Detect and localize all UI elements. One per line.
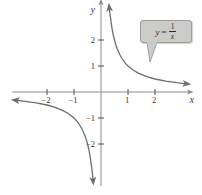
x-tick-label: 2 [152, 95, 156, 105]
x-axis-label: x [189, 95, 195, 105]
equation-fraction: 1x [169, 23, 177, 40]
x-tick-label: 1 [125, 95, 129, 105]
y-tick-label: 1 [91, 61, 95, 71]
x-tick-label: −1 [68, 95, 77, 105]
equation-lhs: y [156, 27, 160, 37]
equation-text: y=1x [156, 23, 177, 40]
curve-negative-branch [13, 100, 93, 183]
fraction-denominator: x [169, 32, 177, 40]
y-axis-label: y [90, 5, 96, 15]
equation-equals: = [162, 27, 167, 37]
callout-tail-icon [143, 42, 159, 64]
x-tick-label: −2 [41, 95, 50, 105]
y-tick-label: 2 [91, 35, 95, 45]
y-tick-label: −1 [86, 113, 95, 123]
equation-callout: y=1x [140, 20, 192, 43]
hyperbola-figure: −2−112−2−112yx y=1x [0, 0, 202, 195]
fraction-numerator: 1 [169, 23, 177, 32]
